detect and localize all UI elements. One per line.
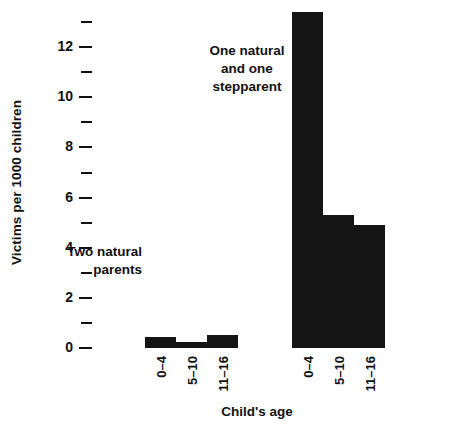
y-tick-mark-10	[79, 96, 92, 99]
y-tick-mark-2	[79, 297, 92, 300]
y-tick-mark-5	[81, 222, 92, 225]
y-axis-title-text: Victims per 1000 children	[10, 100, 25, 265]
bar-two-natural-5-10	[176, 342, 207, 348]
y-tick-label-6: 6	[65, 190, 73, 204]
y-axis-title: Victims per 1000 children	[4, 0, 30, 365]
y-tick-mark-12	[79, 46, 92, 49]
y-tick-mark-8	[79, 146, 92, 149]
x-tick-two-natural-11-16: 11–16	[207, 356, 238, 402]
y-tick-mark-13	[81, 21, 92, 24]
y-tick-mark-11	[81, 71, 92, 74]
x-tick-label-text: 5–10	[331, 356, 346, 385]
x-tick-step-0-4: 0–4	[292, 356, 323, 402]
x-tick-two-natural-5-10: 5–10	[176, 356, 207, 402]
y-tick-label-2: 2	[65, 290, 73, 304]
x-tick-label-text: 11–16	[362, 356, 377, 391]
x-tick-label-text: 11–16	[215, 356, 230, 391]
bar-two-natural-0-4	[145, 337, 176, 348]
x-tick-label-text: 5–10	[184, 356, 199, 385]
bar-step-11-16	[354, 225, 385, 348]
group-caption-two-natural-parents: Two natural parents	[6, 243, 142, 279]
x-tick-label-text: 0–4	[153, 356, 168, 378]
y-tick-label-8: 8	[65, 139, 73, 153]
y-tick-mark-7	[81, 172, 92, 175]
y-tick-label-12: 12	[57, 39, 73, 53]
group-caption-one-natural-one-stepparent: One natural and one stepparent	[177, 42, 317, 95]
y-tick-mark-1	[81, 322, 92, 325]
x-tick-step-11-16: 11–16	[354, 356, 385, 402]
bar-chart: Victims per 1000 children 12 10 8 6 4	[0, 0, 452, 431]
x-tick-two-natural-0-4: 0–4	[145, 356, 176, 402]
y-tick-mark-9	[81, 121, 92, 124]
y-tick-label-0: 0	[65, 340, 73, 354]
x-axis-title: Child's age	[96, 404, 418, 419]
bar-two-natural-11-16	[207, 335, 238, 348]
x-tick-step-5-10: 5–10	[323, 356, 354, 402]
y-tick-label-10: 10	[57, 89, 73, 103]
y-tick-mark-0	[79, 347, 92, 350]
bar-step-5-10	[323, 215, 354, 348]
y-tick-mark-6	[79, 197, 92, 200]
x-tick-label-text: 0–4	[300, 356, 315, 378]
